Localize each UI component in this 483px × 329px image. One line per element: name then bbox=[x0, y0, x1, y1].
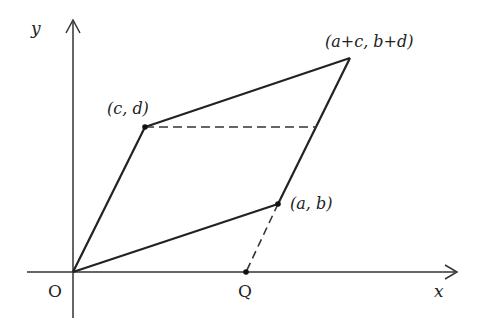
dashed-ab-to-q bbox=[246, 204, 278, 272]
x-axis-label: x bbox=[434, 283, 444, 300]
point-ab-label: (a, b) bbox=[290, 196, 332, 212]
point-sum-label: (a+c, b+d) bbox=[325, 34, 413, 50]
y-axis-label: y bbox=[31, 20, 41, 37]
edge-o-to-cd bbox=[73, 127, 145, 272]
point-cd bbox=[142, 124, 148, 130]
origin-label: O bbox=[48, 283, 62, 300]
edge-sum-to-ab bbox=[278, 58, 350, 204]
point-q-label: Q bbox=[238, 283, 252, 300]
edge-cd-to-sum bbox=[145, 58, 350, 127]
point-ab bbox=[275, 201, 281, 207]
point-q bbox=[243, 269, 249, 275]
point-cd-label: (c, d) bbox=[107, 101, 149, 117]
edge-ab-to-o bbox=[73, 204, 278, 272]
diagram-canvas: y x O Q (c, d) (a, b) (a+c, b+d) bbox=[0, 0, 483, 329]
